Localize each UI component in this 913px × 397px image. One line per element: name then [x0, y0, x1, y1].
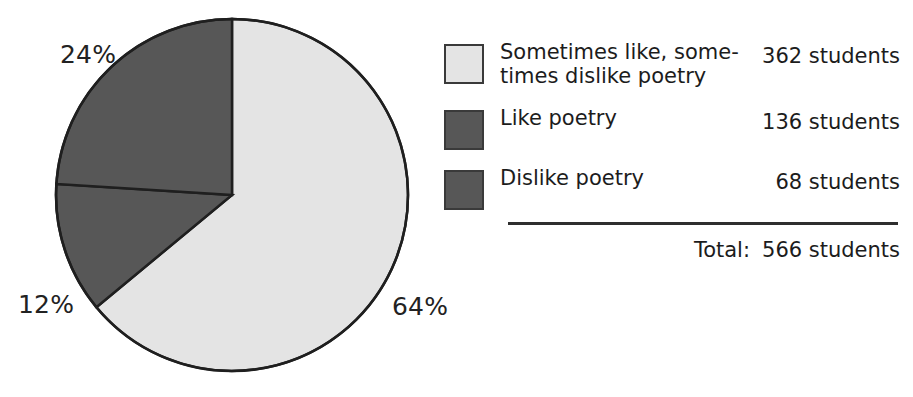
legend-swatch-like-poetry [444, 110, 484, 150]
legend-value-sometimes-like-sometimes-dislike-poetry: 362 students [680, 44, 900, 68]
total-label: Total: [694, 238, 750, 262]
legend-row: Dislike poetry 68 students [442, 168, 900, 222]
legend-swatch-dislike-poetry [444, 170, 484, 210]
legend-row: Like poetry 136 students [442, 108, 900, 162]
legend-value-dislike-poetry: 68 students [680, 170, 900, 194]
legend-swatch-sometimes-like-sometimes-dislike-poetry [444, 44, 484, 84]
legend-label-line1: Like poetry [500, 106, 617, 130]
legend-value-like-poetry: 136 students [680, 110, 900, 134]
pie-percent-label-like-poetry: 24% [60, 40, 116, 69]
pie-chart-area: 24% 12% 64% [0, 0, 456, 397]
pie-chart-figure: 24% 12% 64% Sometimes like, some- times … [0, 0, 913, 397]
legend-label-line1: Dislike poetry [500, 166, 644, 190]
legend-row: Sometimes like, some- times dislike poet… [442, 42, 900, 96]
pie-percent-label-sometimes: 64% [392, 292, 448, 321]
legend-total-row: Total: 566 students [442, 238, 900, 266]
legend-total-divider [508, 222, 898, 225]
total-value: 566 students [760, 238, 900, 262]
pie-percent-label-dislike-poetry: 12% [18, 290, 74, 319]
legend: Sometimes like, some- times dislike poet… [442, 30, 904, 270]
